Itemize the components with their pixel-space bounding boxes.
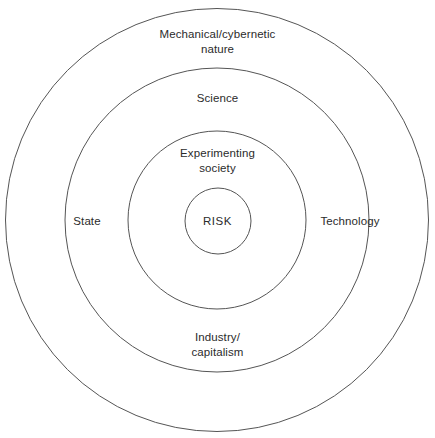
concentric-circles-diagram: Mechanical/cybernetic nature Science Exp… [0,0,435,438]
second-ring-label: Science [0,91,435,106]
state-label: State [52,214,122,229]
industry-capitalism-label: Industry/ capitalism [0,330,435,359]
technology-label: Technology [311,214,389,229]
outer-ring-label: Mechanical/cybernetic nature [0,27,435,56]
third-ring-label: Experimenting society [0,146,435,175]
